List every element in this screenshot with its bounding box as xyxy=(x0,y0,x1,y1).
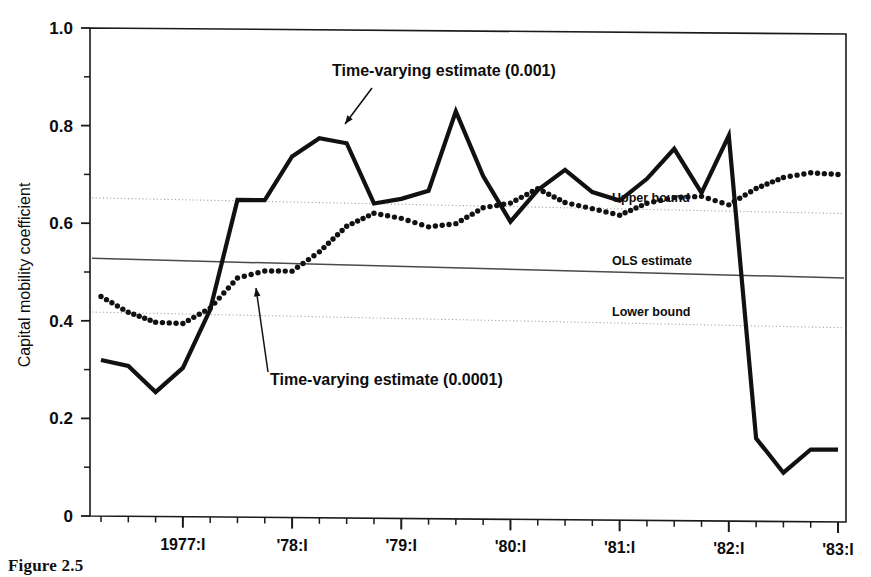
series-dot xyxy=(360,216,365,221)
series-dot xyxy=(147,318,152,323)
series-dot xyxy=(719,200,724,205)
series-dot xyxy=(576,203,581,208)
series-dot xyxy=(794,172,799,177)
series-dot xyxy=(269,268,274,273)
series-dot xyxy=(513,198,518,203)
annotation-arrow-upper xyxy=(345,88,372,124)
series-dot xyxy=(186,318,191,323)
series-dot xyxy=(173,320,178,325)
series-dot xyxy=(321,245,326,250)
capital-mobility-chart: 00.20.40.60.81.0 1977:I'78:I'79:I'80:I'8… xyxy=(0,0,871,577)
series-dot xyxy=(759,184,764,189)
series-dot xyxy=(255,270,260,275)
series-dot xyxy=(104,297,109,302)
series-dot xyxy=(221,290,226,295)
series-dot xyxy=(217,295,222,300)
series-dot xyxy=(546,192,551,197)
series-dot xyxy=(822,171,827,176)
series-dot xyxy=(583,204,588,209)
series-dot xyxy=(590,206,595,211)
series-dot xyxy=(617,213,622,218)
series-dot xyxy=(317,249,322,254)
series-dot xyxy=(562,200,567,205)
series-dot xyxy=(131,312,136,317)
series-dot xyxy=(433,223,438,228)
series-dot xyxy=(770,179,775,184)
series-dot xyxy=(610,211,615,216)
series-dot xyxy=(706,196,711,201)
series-dot xyxy=(230,280,235,285)
series-dot xyxy=(115,303,120,308)
series-dot xyxy=(732,199,737,204)
series-dot xyxy=(235,275,240,280)
series-dot xyxy=(440,223,445,228)
series-dot xyxy=(289,268,294,273)
series-dot xyxy=(335,232,340,237)
series-dot xyxy=(569,201,574,206)
series-dot xyxy=(470,211,475,216)
series-dot xyxy=(658,198,663,203)
series-dot xyxy=(781,175,786,180)
series-dot xyxy=(191,315,196,320)
series-dot xyxy=(197,312,202,317)
series-dot xyxy=(475,208,480,213)
series-dot xyxy=(644,201,649,206)
x-tick-label: 1977:I xyxy=(160,536,205,553)
series-dot xyxy=(385,213,390,218)
reference-line-ols-estimate xyxy=(92,258,844,278)
series-dot xyxy=(685,194,690,199)
x-tick-label: '81:I xyxy=(604,539,635,556)
series-dot xyxy=(426,224,431,229)
figure-caption: Figure 2.5 xyxy=(8,556,83,576)
series-dot xyxy=(446,222,451,227)
series-dot xyxy=(295,265,300,270)
series-dot xyxy=(349,221,354,226)
series-dot xyxy=(248,272,253,277)
series-dot xyxy=(300,261,305,266)
series-dot xyxy=(453,221,458,226)
series-dot xyxy=(788,174,793,179)
series-dot xyxy=(153,320,158,325)
series-dot xyxy=(628,208,633,213)
series-dot xyxy=(678,195,683,200)
series-dot xyxy=(392,214,397,219)
series-dot xyxy=(180,321,185,326)
series-dot xyxy=(501,202,506,207)
series-dot xyxy=(557,197,562,202)
x-tick-label: '78:I xyxy=(276,537,307,554)
series-dot xyxy=(212,300,217,305)
series-dot xyxy=(276,268,281,273)
series-dot xyxy=(459,218,464,223)
series-dot xyxy=(137,314,142,319)
series-time-varying-00001 xyxy=(98,170,840,326)
y-tick-label: 0 xyxy=(64,507,73,526)
series-dot xyxy=(344,224,349,229)
x-tick-label: '80:I xyxy=(495,538,526,555)
series-dot xyxy=(167,320,172,325)
y-tick-label: 0.6 xyxy=(49,214,73,233)
series-dot xyxy=(596,208,601,213)
y-tick-label: 1.0 xyxy=(49,19,73,38)
series-dot xyxy=(480,205,485,210)
series-dot xyxy=(487,204,492,209)
series-dot xyxy=(330,236,335,241)
series-dot xyxy=(815,171,820,176)
series-dot xyxy=(748,189,753,194)
series-dot xyxy=(672,195,677,200)
series-dot xyxy=(419,222,424,227)
series-dot xyxy=(283,268,288,273)
series-dot xyxy=(651,199,656,204)
series-dot xyxy=(142,316,147,321)
series-dot xyxy=(306,257,311,262)
annotation-arrow-lower xyxy=(254,288,268,372)
series-dot xyxy=(120,306,125,311)
series-dot xyxy=(764,181,769,186)
reference-lines: Upper boundOLS estimateLower bound xyxy=(92,191,844,328)
series-dot xyxy=(775,177,780,182)
series-dot xyxy=(339,228,344,233)
series-dot xyxy=(639,203,644,208)
x-tick-label: '82:I xyxy=(713,540,744,557)
series-time-varying-0001 xyxy=(101,111,838,472)
series-dot xyxy=(412,220,417,225)
figure-container: 00.20.40.60.81.0 1977:I'78:I'79:I'80:I'8… xyxy=(0,0,871,577)
